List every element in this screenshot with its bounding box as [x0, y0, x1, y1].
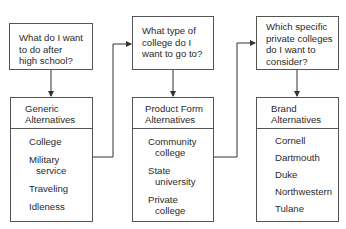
alternatives-header: Product Form Alternatives — [133, 98, 213, 129]
item-line: Northwestern — [275, 186, 338, 197]
question-line: college do I — [142, 37, 213, 49]
list-item: Communitycollege — [148, 136, 213, 158]
question-line: private colleges — [266, 33, 338, 45]
list-item: Dartmouth — [275, 152, 338, 163]
alternatives-list: College Militaryservice Traveling Idlene… — [11, 136, 92, 212]
item-line: Tulane — [275, 203, 338, 214]
list-item: Northwestern — [275, 186, 338, 197]
item-line: service — [29, 165, 92, 176]
list-item: Cornell — [275, 135, 338, 146]
list-item: Tulane — [275, 203, 338, 214]
item-line: Idleness — [29, 201, 92, 212]
item-line: Military — [29, 154, 92, 165]
question-line: want to go to? — [142, 48, 213, 60]
alternatives-box-generic: Generic Alternatives College Militaryser… — [10, 97, 93, 222]
alternatives-header: Brand Alternatives — [257, 98, 338, 129]
question-text: Which specific private colleges do I wan… — [257, 17, 338, 67]
question-line: do I want to — [266, 44, 338, 56]
question-line: What do I want — [19, 32, 92, 44]
list-item: Privatecollege — [148, 194, 213, 216]
list-item: Duke — [275, 169, 338, 180]
item-line: Traveling — [29, 183, 92, 194]
question-text: What type of college do I want to go to? — [133, 17, 213, 60]
header-line: Alternatives — [25, 114, 92, 125]
list-item: Idleness — [29, 201, 92, 212]
alternatives-list: Communitycollege Stateuniversity Private… — [133, 136, 213, 216]
question-box-1: What do I want to do after high school? — [9, 23, 93, 70]
item-line: Cornell — [275, 135, 338, 146]
question-box-3: Which specific private colleges do I wan… — [256, 16, 339, 70]
header-line: Product Form — [145, 103, 213, 114]
item-line: Private — [148, 194, 213, 205]
header-line: Generic — [25, 103, 92, 114]
arrow-col1-to-col2 — [92, 44, 131, 157]
list-item: Militaryservice — [29, 154, 92, 176]
item-line: college — [148, 147, 213, 158]
question-text: What do I want to do after high school? — [10, 24, 92, 67]
question-line: high school? — [19, 55, 92, 67]
item-line: Community — [148, 136, 213, 147]
question-box-2: What type of college do I want to go to? — [132, 16, 214, 70]
item-line: university — [148, 176, 213, 187]
item-line: Duke — [275, 169, 338, 180]
question-line: Which specific — [266, 21, 338, 33]
header-line: Alternatives — [145, 114, 213, 125]
item-line: college — [148, 205, 213, 216]
list-item: Stateuniversity — [148, 165, 213, 187]
alternatives-box-brand: Brand Alternatives Cornell Dartmouth Duk… — [256, 97, 339, 222]
question-line: consider? — [266, 56, 338, 68]
list-item: College — [29, 136, 92, 147]
arrow-col2-to-col3 — [214, 43, 255, 157]
alternatives-box-product-form: Product Form Alternatives Communitycolle… — [132, 97, 214, 222]
header-line: Alternatives — [271, 114, 338, 125]
alternatives-list: Cornell Dartmouth Duke Northwestern Tula… — [257, 135, 338, 214]
item-line: Dartmouth — [275, 152, 338, 163]
item-line: State — [148, 165, 213, 176]
item-line: College — [29, 136, 92, 147]
list-item: Traveling — [29, 183, 92, 194]
header-line: Brand — [271, 103, 338, 114]
question-line: What type of — [142, 25, 213, 37]
question-line: to do after — [19, 44, 92, 56]
alternatives-header: Generic Alternatives — [11, 98, 92, 129]
